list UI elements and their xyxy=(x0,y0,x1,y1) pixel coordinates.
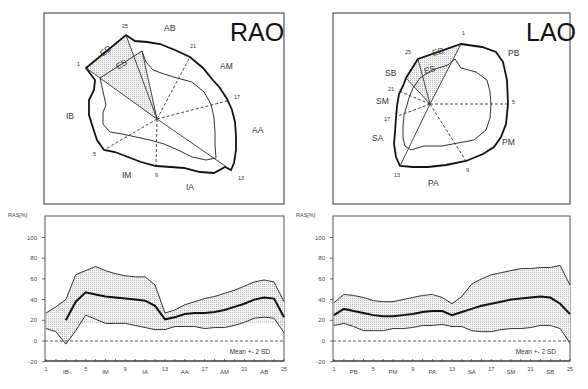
region-label: AA xyxy=(252,125,264,135)
y-tick-label: 100 xyxy=(27,235,38,241)
figure-canvas: RAO ED ES ABAMAAIAIMIB 25211713951 LAO xyxy=(0,0,588,389)
lao-title: LAO xyxy=(526,18,576,46)
x-tick-label: 25 xyxy=(281,366,287,372)
y-tick-label: -20 xyxy=(316,359,325,365)
x-tick-label: 25 xyxy=(567,366,573,372)
point-number-label: 1 xyxy=(77,61,80,67)
x-region-label: SA xyxy=(468,369,476,375)
x-tick-label: 13 xyxy=(162,366,168,372)
x-tick-label: 1 xyxy=(332,366,335,372)
region-label: IB xyxy=(66,111,74,121)
x-region-label: PM xyxy=(389,369,398,375)
y-tick-label: 80 xyxy=(318,255,325,261)
point-number-label: 25 xyxy=(405,49,411,55)
region-label: SM xyxy=(376,96,389,106)
y-tick-label: -20 xyxy=(28,359,37,365)
region-label: SA xyxy=(372,133,384,143)
rao-ventriculogram-panel: RAO ED ES ABAMAAIAIMIB 25211713951 xyxy=(44,13,284,204)
y-tick-label: 0 xyxy=(322,338,326,344)
region-label: IA xyxy=(186,182,194,192)
y-axis-label: RAS[%] xyxy=(296,212,316,218)
x-region-label: SB xyxy=(546,369,554,375)
x-tick-label: 9 xyxy=(411,366,414,372)
point-number-label: 17 xyxy=(234,94,240,100)
y-tick-label: 20 xyxy=(30,317,37,323)
x-region-label: AM xyxy=(220,369,229,375)
y-tick-label: 20 xyxy=(318,317,325,323)
point-number-label: 17 xyxy=(384,116,390,122)
x-tick-label: 21 xyxy=(528,366,534,372)
point-number-label: 13 xyxy=(238,175,244,181)
x-region-label: PB xyxy=(350,369,358,375)
lao-ventriculogram-panel: LAO ED ES PBPMPASASMSB 12521171395 xyxy=(333,13,576,204)
point-number-label: 5 xyxy=(512,99,515,105)
point-number-label: 5 xyxy=(93,151,96,157)
y-tick-label: 40 xyxy=(30,297,37,303)
region-label: PM xyxy=(502,137,515,147)
point-number-label: 13 xyxy=(394,172,400,178)
x-tick-label: 5 xyxy=(372,366,375,372)
region-label: IM xyxy=(122,170,131,180)
x-region-label: AB xyxy=(260,369,268,375)
y-tick-label: 0 xyxy=(34,338,38,344)
reference-stripe xyxy=(334,319,570,323)
region-label: PA xyxy=(428,178,439,188)
x-tick-label: 9 xyxy=(124,366,127,372)
y-tick-label: 60 xyxy=(318,276,325,282)
x-region-label: AA xyxy=(181,369,189,375)
legend-text: Mean +- 2 SD xyxy=(230,348,271,355)
y-tick-label: 40 xyxy=(318,297,325,303)
x-tick-label: 17 xyxy=(488,366,494,372)
x-region-label: IB xyxy=(63,369,69,375)
point-number-label: 25 xyxy=(122,23,128,29)
point-number-label: 9 xyxy=(155,172,158,178)
x-region-label: IM xyxy=(102,369,109,375)
region-label: PB xyxy=(508,48,520,58)
x-tick-label: 1 xyxy=(44,366,47,372)
x-region-label: IA xyxy=(142,369,148,375)
point-number-label: 1 xyxy=(462,30,465,36)
x-tick-label: 21 xyxy=(241,366,247,372)
x-region-label: SM xyxy=(507,369,516,375)
y-tick-label: 80 xyxy=(30,255,37,261)
x-tick-label: 5 xyxy=(84,366,87,372)
point-number-label: 21 xyxy=(388,86,394,92)
region-label: SB xyxy=(385,68,397,78)
rao-regional-shortening-chart: RAS[%]100806040200-2015913172125IBIMIAAA… xyxy=(8,212,287,375)
y-tick-label: 100 xyxy=(315,235,326,241)
x-tick-label: 17 xyxy=(202,366,208,372)
y-tick-label: 60 xyxy=(30,276,37,282)
y-axis-label: RAS[%] xyxy=(8,212,28,218)
point-number-label: 21 xyxy=(190,43,196,49)
x-region-label: PA xyxy=(429,369,437,375)
lao-regional-shortening-chart: RAS[%]100806040200-2015913172125PBPMPASA… xyxy=(296,212,573,375)
legend-text: Mean +- 2 SD xyxy=(516,348,557,355)
point-number-label: 9 xyxy=(466,167,469,173)
sd-band xyxy=(46,266,284,344)
region-label: AM xyxy=(220,61,233,71)
region-label: AB xyxy=(164,23,176,33)
x-tick-label: 13 xyxy=(449,366,455,372)
rao-title: RAO xyxy=(230,18,284,46)
